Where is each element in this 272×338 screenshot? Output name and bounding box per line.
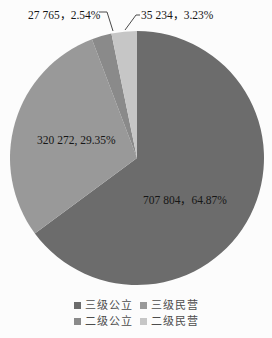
legend-swatch-level2-private xyxy=(140,318,147,325)
legend-label-level3-public: 三级公立 xyxy=(85,299,133,312)
legend-swatch-level3-public xyxy=(74,302,81,309)
legend-row-2: 二级公立 二级民营 xyxy=(74,315,199,328)
leader-line-level2-private xyxy=(125,15,140,30)
legend-item-level3-public[interactable]: 三级公立 xyxy=(74,299,133,312)
legend-swatch-level3-private xyxy=(140,302,147,309)
legend-label-level2-private: 二级民营 xyxy=(151,315,199,328)
leader-line-level2-public xyxy=(99,12,113,31)
legend-label-level3-private: 三级民营 xyxy=(151,299,199,312)
pie-chart: 27 765，2.54% 35 234，3.23% 320 272, 29.35… xyxy=(0,0,272,298)
pie-chart-figure: 27 765，2.54% 35 234，3.23% 320 272, 29.35… xyxy=(0,0,272,338)
legend-row-1: 三级公立 三级民营 xyxy=(74,299,199,312)
legend-item-level3-private[interactable]: 三级民营 xyxy=(140,299,199,312)
data-label-level2-private: 35 234，3.23% xyxy=(141,9,214,21)
legend: 三级公立 三级民营 二级公立 二级民营 xyxy=(0,299,272,328)
data-label-level2-public: 27 765，2.54% xyxy=(28,9,101,21)
pie-slices xyxy=(10,31,264,285)
legend-item-level2-private[interactable]: 二级民营 xyxy=(140,315,199,328)
legend-item-level2-public[interactable]: 二级公立 xyxy=(74,315,133,328)
legend-swatch-level2-public xyxy=(74,318,81,325)
data-label-level3-private: 320 272, 29.35% xyxy=(37,134,116,147)
legend-label-level2-public: 二级公立 xyxy=(85,315,133,328)
data-label-level3-public: 707 804，64.87% xyxy=(143,194,227,206)
